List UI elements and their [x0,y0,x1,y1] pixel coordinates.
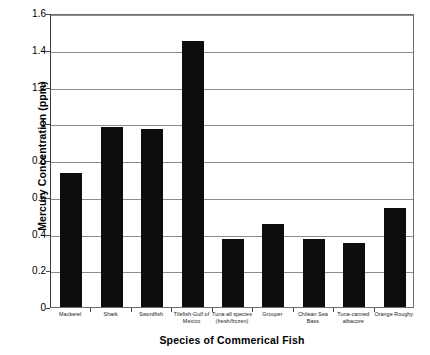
y-tick-label: 1.6 [0,9,46,19]
x-category-label-line: Swordfish [131,311,171,318]
bar [101,127,123,307]
y-tick-label: 0.6 [0,193,46,203]
x-category-label-line: Grouper [252,311,292,318]
x-category-label: Shark [90,311,130,318]
bars-layer [51,15,413,307]
y-tick-label: 1 [0,119,46,129]
x-category-label: Tilefish-Gulf ofMexico [171,311,211,324]
x-category-label-line: Mackerel [50,311,90,318]
bar-slot [51,15,91,307]
y-tick-mark [46,124,50,125]
bar-slot [253,15,293,307]
x-category-label: Mackerel [50,311,90,318]
x-axis-category-labels: MackerelSharkSwordfishTilefish-Gulf ofMe… [50,311,414,333]
y-tick-mark [46,51,50,52]
x-category-label-line: Shark [90,311,130,318]
x-axis-title: Species of Commerical Fish [50,334,414,346]
x-category-label: Grouper [252,311,292,318]
bar [303,239,325,307]
x-category-label-line: Mexico [171,318,211,325]
bar-slot [294,15,334,307]
y-tick-label: 0 [0,303,46,313]
bar [384,208,406,307]
bar [141,129,163,307]
x-category-label-line: Bass [293,318,333,325]
bar [182,41,204,307]
x-category-label-line: Tuna-canned [333,311,373,318]
x-category-label-line: Tuna-all species [212,311,252,318]
bar [60,173,82,307]
bar-slot [132,15,172,307]
mercury-concentration-bar-chart: Mercury Concentration (ppm) 00.20.40.60.… [0,0,430,355]
y-tick-mark [46,88,50,89]
x-category-label-line: Chilean Sea [293,311,333,318]
y-tick-label: 0.2 [0,266,46,276]
x-category-label-line: Tilefish-Gulf of [171,311,211,318]
x-category-label: Orange Roughy [374,311,414,318]
y-tick-label: 1.4 [0,46,46,56]
bar [343,243,365,307]
y-tick-mark [46,271,50,272]
x-category-label: Swordfish [131,311,171,318]
y-tick-label: 1.2 [0,83,46,93]
y-tick-mark [46,161,50,162]
y-tick-label: 0.4 [0,230,46,240]
bar-slot [213,15,253,307]
bar-slot [334,15,374,307]
bar-slot [91,15,131,307]
x-category-label-line: Orange Roughy [374,311,414,318]
bar-slot [375,15,415,307]
bar-slot [172,15,212,307]
y-tick-mark [46,198,50,199]
y-tick-mark [46,14,50,15]
x-category-label: Tuna-all species(fresh/frozen) [212,311,252,324]
bar [222,239,244,307]
x-category-label: Chilean SeaBass [293,311,333,324]
x-category-label: Tuna-cannedalbacore [333,311,373,324]
y-tick-label: 0.8 [0,156,46,166]
x-category-label-line: albacore [333,318,373,325]
bar [262,224,284,307]
y-tick-mark [46,235,50,236]
plot-area [50,14,414,308]
x-category-label-line: (fresh/frozen) [212,318,252,325]
y-tick-mark [46,308,50,309]
